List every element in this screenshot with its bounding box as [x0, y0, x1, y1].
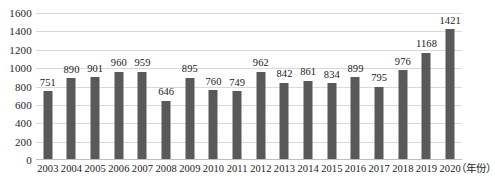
bar [280, 83, 289, 160]
bar-slot: 834 [320, 13, 344, 160]
bar-slot: 1168 [415, 13, 439, 160]
plot-area: 7518909019609596468957607499628428618348… [36, 13, 462, 160]
bar-value-label: 646 [158, 87, 174, 98]
bar-slot: 795 [367, 13, 391, 160]
bar-slot: 890 [60, 13, 84, 160]
bar-slot: 962 [249, 13, 273, 160]
bar-value-label: 751 [40, 78, 56, 89]
bar [43, 91, 52, 160]
bar-slot: 861 [296, 13, 320, 160]
bar-slot: 842 [273, 13, 297, 160]
bar-slot: 760 [202, 13, 226, 160]
x-axis-tick-label: 2012 [250, 163, 271, 176]
bar-value-label: 960 [111, 58, 127, 69]
bar [91, 77, 100, 160]
x-axis-tick-label: 2009 [179, 163, 200, 176]
x-axis-tick-label: 2017 [368, 163, 389, 176]
y-axis-tick-label: 600 [0, 99, 32, 110]
bar [304, 81, 313, 160]
x-axis-tick-label: 2018 [392, 163, 413, 176]
y-axis-tick-label: 1600 [0, 8, 32, 19]
y-axis: 02004006008001000120014001600 [0, 0, 32, 194]
bar [233, 91, 242, 160]
bar-value-label: 890 [63, 65, 79, 76]
x-axis-tick-label: 2011 [227, 163, 248, 176]
x-axis-title: （年份） [456, 163, 495, 176]
y-axis-tick-label: 0 [0, 155, 32, 166]
x-axis-tick-label: 2005 [84, 163, 105, 176]
bar-slot: 751 [36, 13, 60, 160]
bar [67, 78, 76, 160]
bar-value-label: 795 [371, 73, 387, 84]
x-axis-tick-label: 2010 [203, 163, 224, 176]
bar-chart: 02004006008001000120014001600 7518909019… [0, 0, 495, 194]
bar [138, 72, 147, 160]
x-axis-tick-label: 2006 [108, 163, 129, 176]
bar-slot: 959 [131, 13, 155, 160]
x-axis-tick-label: 2004 [61, 163, 82, 176]
x-axis-tick-label: 2013 [274, 163, 295, 176]
bar-value-label: 962 [253, 58, 269, 69]
bar [256, 72, 265, 160]
y-axis-tick-label: 400 [0, 118, 32, 129]
y-axis-tick-label: 1000 [0, 63, 32, 74]
x-axis-tick-label: 2007 [132, 163, 153, 176]
bar-slot: 1421 [438, 13, 462, 160]
bar-slot: 960 [107, 13, 131, 160]
bar-value-label: 976 [395, 57, 411, 68]
y-axis-tick-label: 1400 [0, 26, 32, 37]
bar-slot: 976 [391, 13, 415, 160]
bar [327, 83, 336, 160]
bar [446, 29, 455, 160]
bar-slot: 646 [154, 13, 178, 160]
bar-value-label: 842 [276, 69, 292, 80]
bar-slot: 895 [178, 13, 202, 160]
bar-slot: 901 [83, 13, 107, 160]
bar-value-label: 834 [324, 70, 340, 81]
bar-value-label: 895 [182, 64, 198, 75]
bar-value-label: 1168 [416, 39, 437, 50]
axis-baseline [36, 159, 462, 160]
x-axis: 2003200420052006200720082009201020112012… [36, 163, 462, 179]
bar-value-label: 901 [87, 64, 103, 75]
bar-value-label: 1421 [439, 16, 460, 27]
bar [185, 78, 194, 160]
bar [209, 90, 218, 160]
bar-value-label: 749 [229, 78, 245, 89]
bar [162, 101, 171, 160]
x-axis-tick-label: 2016 [345, 163, 366, 176]
bar-value-label: 760 [205, 77, 221, 88]
x-axis-tick-label: 2008 [155, 163, 176, 176]
x-axis-tick-label: 2014 [297, 163, 318, 176]
x-axis-tick-label: 2019 [416, 163, 437, 176]
bar [422, 53, 431, 160]
bar [114, 72, 123, 160]
bar [375, 87, 384, 160]
bar-value-label: 861 [300, 67, 316, 78]
bar-value-label: 959 [134, 58, 150, 69]
y-axis-tick-label: 1200 [0, 44, 32, 55]
x-axis-tick-label: 2015 [321, 163, 342, 176]
bar [398, 70, 407, 160]
bar [351, 77, 360, 160]
y-axis-tick-label: 200 [0, 136, 32, 147]
bar-value-label: 899 [347, 64, 363, 75]
x-axis-tick-label: 2003 [37, 163, 58, 176]
bar-slot: 899 [344, 13, 368, 160]
y-axis-tick-label: 800 [0, 81, 32, 92]
bar-slot: 749 [225, 13, 249, 160]
